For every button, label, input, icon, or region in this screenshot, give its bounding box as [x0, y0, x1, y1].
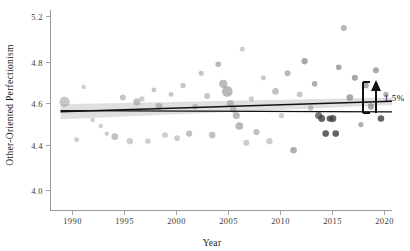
y-axis-title: Other-Oriented Perfectionism: [5, 44, 15, 166]
scatter-point: [120, 94, 126, 100]
scatter-point: [90, 118, 94, 122]
scatter-point: [266, 138, 272, 144]
scatter-point: [152, 87, 157, 92]
scatter-point: [290, 147, 297, 154]
scatter-point: [105, 131, 109, 135]
scatter-point: [243, 140, 249, 146]
x-tick-label: 2005: [219, 216, 238, 226]
scatter-point: [235, 122, 243, 130]
scatter-point: [249, 96, 254, 101]
scatter-point: [352, 75, 358, 81]
x-tick-label: 2020: [375, 216, 394, 226]
scatter-point: [378, 115, 385, 122]
scatter-point: [297, 92, 303, 98]
scatter-point: [272, 88, 279, 95]
scatter-point: [186, 130, 192, 136]
scatter-point: [98, 124, 102, 128]
scatter-point: [368, 103, 374, 109]
scatter-point: [373, 67, 379, 73]
x-tick-label: 2010: [271, 216, 290, 226]
y-tick-label: 4.6: [31, 99, 43, 109]
scatter-point: [139, 96, 144, 101]
scatter-point: [240, 47, 245, 52]
scatter-point: [322, 130, 329, 137]
x-tick-label: 1990: [63, 216, 82, 226]
scatter-point: [308, 105, 313, 110]
scatter-point: [74, 137, 79, 142]
annotation-arrow-head: [371, 80, 381, 91]
scatter-point: [329, 115, 336, 122]
scatter-point: [162, 132, 168, 138]
x-tick-label: 2000: [167, 216, 186, 226]
x-tick-label: 2015: [323, 216, 342, 226]
scatter-point: [358, 122, 363, 127]
scatter-point: [145, 139, 150, 144]
scatter-point: [279, 113, 284, 118]
scatter-points-group: [59, 25, 388, 153]
y-tick-label: 4.4: [31, 141, 43, 151]
x-axis-title: Year: [203, 238, 222, 248]
scatter-point: [127, 138, 133, 144]
scatter-point: [215, 61, 221, 67]
scatter-point: [312, 81, 318, 87]
scatter-point: [261, 75, 266, 80]
scatter-point: [81, 85, 85, 89]
scatter-point: [233, 112, 240, 119]
scatter-point: [180, 83, 185, 88]
scatter-point: [209, 132, 216, 139]
confidence-interval-band: [61, 97, 392, 119]
y-tick-label: 5.2: [31, 12, 43, 22]
scatter-point: [169, 92, 174, 97]
scatter-point: [192, 104, 198, 110]
y-tick-group: 5.2 4.8 4.6 4.4 4.0: [31, 12, 50, 196]
scatter-point: [318, 115, 325, 122]
scatter-point: [285, 70, 291, 76]
scatter-point: [111, 133, 118, 140]
scatter-point: [336, 64, 342, 70]
x-tick-group: 1990 1995 2000 2005 2010 2015 2020: [63, 211, 394, 227]
scatter-point: [332, 130, 339, 137]
y-tick-label: 4.0: [31, 186, 43, 196]
scatter-point: [222, 86, 233, 97]
scatter-point: [174, 135, 180, 141]
scatter-point: [341, 25, 347, 31]
scatter-point: [59, 97, 69, 107]
annotation-label: 1.5%: [384, 93, 405, 103]
scatter-point: [347, 94, 354, 101]
y-tick-label: 4.8: [31, 58, 43, 68]
scatter-point: [199, 71, 204, 76]
scatter-plot-svg: Other-Oriented Perfectionism Year 5.2 4.…: [0, 0, 410, 251]
scatter-point: [301, 58, 307, 64]
chart-figure: Other-Oriented Perfectionism Year 5.2 4.…: [0, 0, 410, 251]
scatter-point: [204, 93, 210, 99]
x-tick-label: 1995: [115, 216, 134, 226]
scatter-point: [253, 129, 259, 135]
